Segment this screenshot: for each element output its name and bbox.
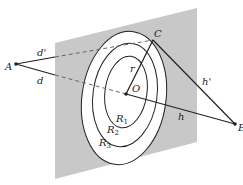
line-d	[16, 64, 55, 75]
label-c: C	[154, 28, 162, 39]
label-b: B	[237, 122, 243, 133]
label-a: A	[4, 61, 12, 72]
label-h-prime: h'	[202, 76, 211, 87]
label-o: O	[132, 83, 140, 94]
point-o	[124, 92, 128, 96]
label-h: h	[178, 111, 184, 122]
point-a	[14, 62, 18, 66]
fresnel-diagram: A d' d C r O h' h B R1 R2 R3	[0, 0, 243, 185]
label-d: d	[37, 75, 43, 86]
point-b	[233, 122, 237, 126]
line-d-prime	[16, 57, 55, 64]
label-d-prime: d'	[37, 47, 46, 58]
diagram-canvas: A d' d C r O h' h B R1 R2 R3	[0, 0, 243, 185]
